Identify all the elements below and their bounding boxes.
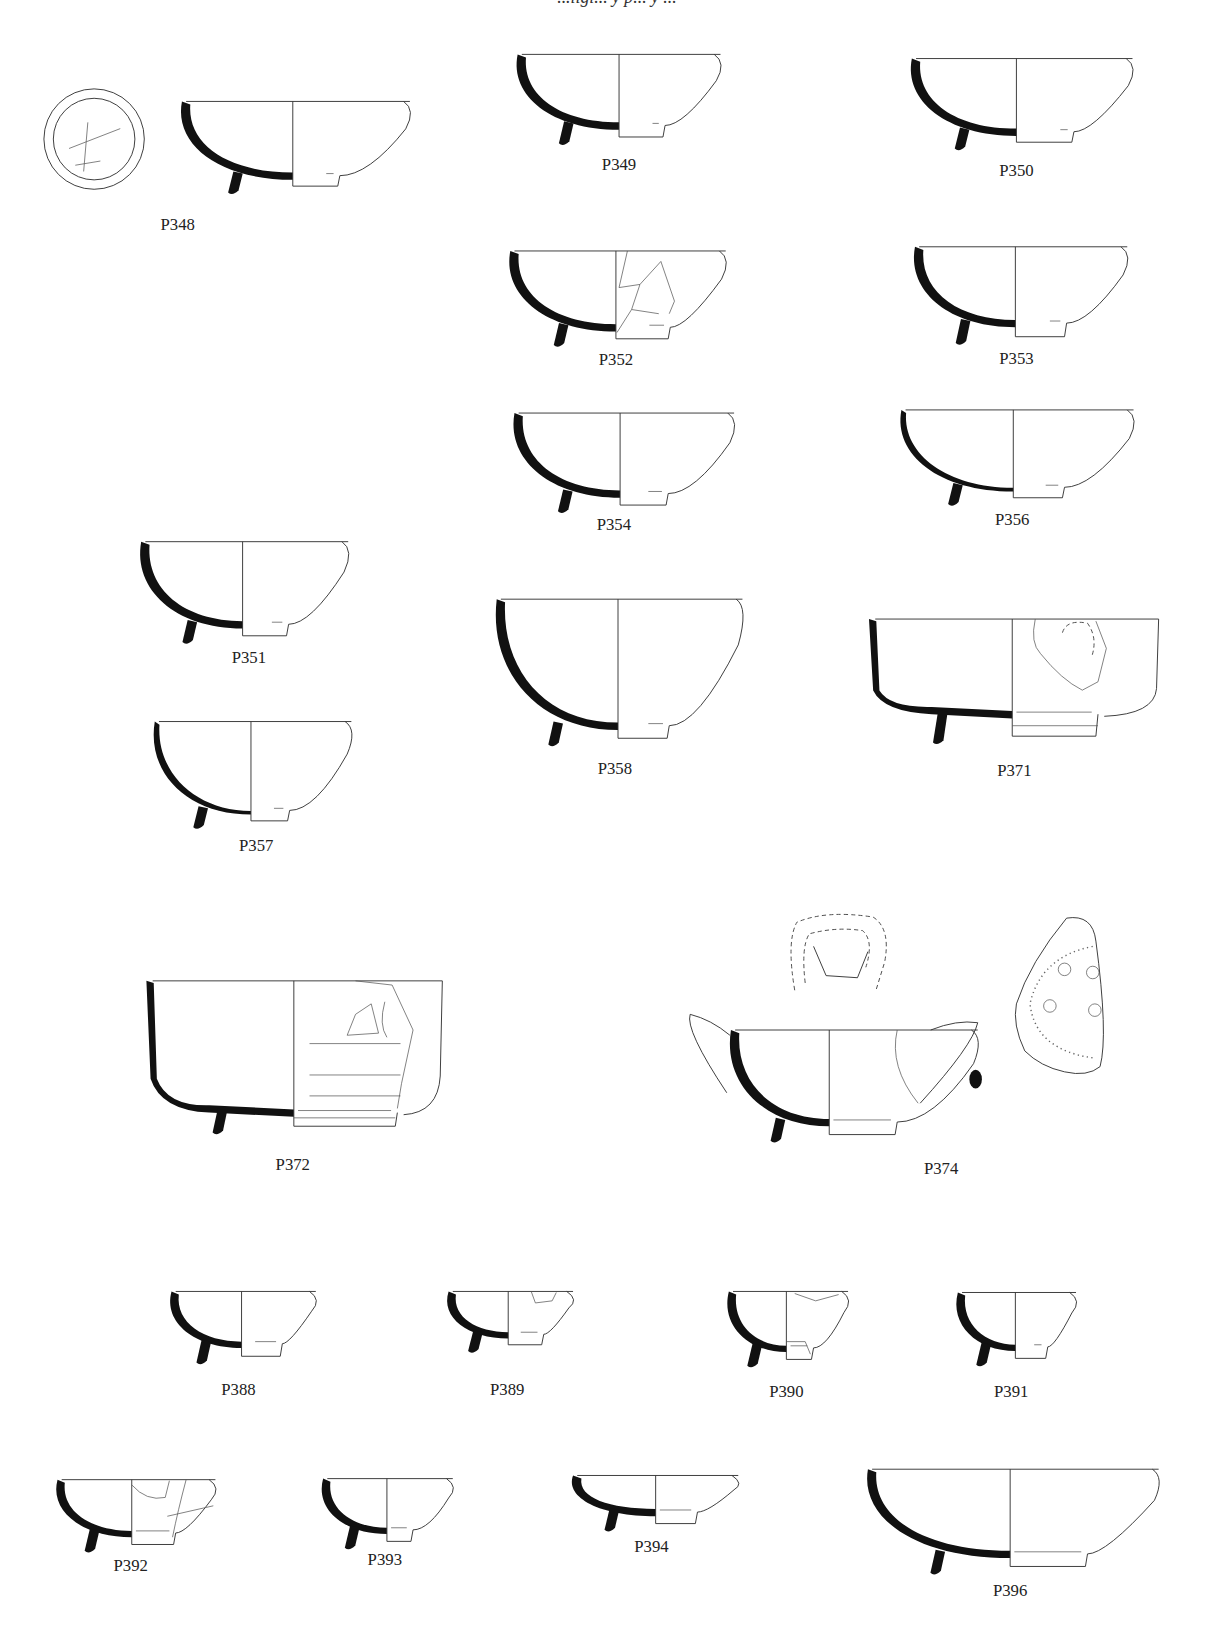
vessel-p392: P392 [56,1480,216,1575]
section-profile [496,599,618,730]
catalogue-label: P396 [993,1581,1027,1600]
vessel-p349: P349 [517,54,721,174]
vessel-p357: P357 [154,722,352,856]
vessel-p394: P394 [572,1475,739,1555]
graffito-mark [69,122,120,171]
handle-outer [791,914,886,990]
catalogue-label: P371 [997,761,1031,780]
section-profile [56,1480,132,1538]
exterior-profile [1067,247,1128,323]
appliqué-figure [347,1002,387,1038]
section-profile [727,1291,786,1352]
foot-exterior [1015,323,1066,337]
foot-exterior [829,1122,897,1135]
exterior-profile [1065,410,1135,487]
catalogue-label: P357 [239,836,273,855]
section-profile [154,722,251,815]
catalogue-label: P352 [599,350,633,369]
section-profile [911,59,1017,136]
exterior-profile [897,1030,978,1122]
exterior-profile [289,542,349,625]
handle-cross-section [969,1070,982,1089]
catalogue-label: P349 [602,155,636,174]
palmette-stamp [1044,1000,1057,1013]
foot-exterior [293,176,340,186]
foot-ring-section [930,1550,945,1575]
foot-ring-section [182,620,197,644]
foot-exterior [508,1334,544,1344]
catalogue-label: P358 [598,759,632,778]
foot-ring-section [956,319,971,345]
catalogue-label: P390 [769,1382,803,1401]
foot-ring-section [196,1340,211,1365]
catalogue-label: P356 [995,510,1029,529]
foot-exterior [251,810,290,820]
section-profile [517,54,619,129]
catalogue-label: P350 [999,161,1033,180]
vessel-p351: P351 [140,542,349,667]
section-profile [869,619,1012,718]
section-profile [146,981,293,1117]
exterior-profile [697,1475,738,1512]
section-profile [513,413,620,498]
palmette-stamp [1086,966,1099,979]
foot-ring-section [559,121,574,145]
vessel-p374: P374 [690,914,1104,1178]
vessel-p393: P393 [322,1479,454,1570]
break-line [895,1030,918,1103]
exterior-profile [290,722,352,811]
foot-ring-section [554,323,569,347]
catalogue-label: P372 [276,1155,310,1174]
vessel-p358: P358 [496,599,743,778]
foot-exterior [620,494,668,506]
foot-ring-section [933,710,948,744]
foot-ring-section [345,1526,360,1550]
section-profile [900,410,1013,492]
palmette-stamp [1089,1004,1102,1017]
exterior-profile [665,54,721,125]
foot-ring-section [193,806,208,829]
foot-exterior [619,125,665,137]
vessel-p354: P354 [513,413,734,534]
section-profile [509,251,616,332]
foot-exterior [1010,1554,1087,1567]
exterior-profile [1048,1292,1077,1346]
vessel-p388: P388 [170,1291,316,1399]
figure-plate: ...ligi... y p... y ... P348P349P350P352… [0,0,1213,1650]
section-profile [140,542,242,629]
section-profile [867,1469,1010,1558]
section-profile [170,1291,241,1347]
stamped-base-sherd [1015,918,1103,1074]
break-line [132,1480,214,1538]
exterior-profile [1088,1469,1160,1554]
foot-ring-section [605,1508,620,1532]
foot-ring-section [558,489,573,513]
spout-right [920,1022,978,1103]
exterior-profile [413,1479,453,1530]
catalogue-label: P353 [999,349,1033,368]
foot-exterior [243,624,289,636]
vessel-p390: P390 [727,1291,848,1401]
foot-exterior [242,1344,283,1357]
vessel-p350: P350 [911,59,1133,180]
exterior-profile [668,413,734,494]
catalogue-label: P391 [994,1382,1028,1401]
section-profile [914,247,1015,328]
section-profile [181,101,293,179]
foot-ring-section [228,171,243,194]
vessel-p396: P396 [867,1469,1159,1600]
foot-exterior [1015,1347,1047,1359]
foot-ring-section [771,1118,786,1143]
break-line [786,1294,838,1355]
exterior-profile [669,599,743,726]
catalogue-label: P394 [634,1537,669,1556]
catalogue-label: P351 [232,648,266,667]
foot-exterior [132,1533,176,1545]
catalogue-label: P389 [490,1380,524,1399]
foot-exterior [1012,714,1098,736]
vessel-p372: P372 [146,981,442,1174]
exterior-profile [282,1291,316,1343]
foot-ring-section [85,1529,100,1553]
break-lines [356,981,414,1109]
handle-section [814,946,868,977]
